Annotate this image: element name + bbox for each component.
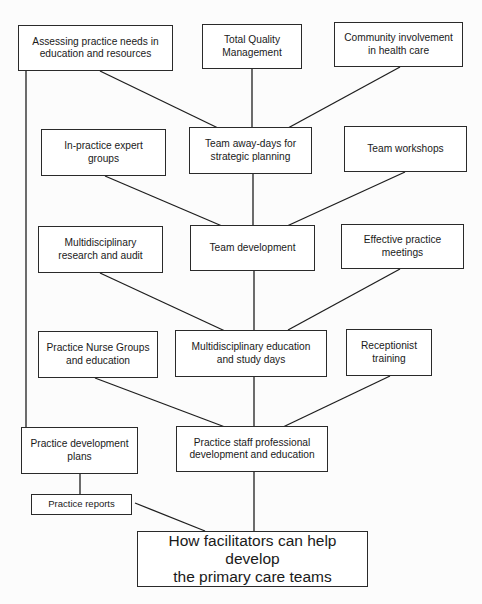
node-community-involvement: Community involvement in health care (334, 22, 463, 67)
node-receptionist-training: Receptionist training (346, 329, 432, 376)
node-team-away-days: Team away-days for strategic planning (189, 127, 312, 174)
node-team-workshops: Team workshops (344, 126, 467, 172)
node-label: In-practice expert groups (64, 140, 143, 165)
node-label: Receptionist training (361, 340, 417, 365)
edge-research-to-multied (100, 273, 225, 331)
node-effective-practice-meetings: Effective practice meetings (341, 224, 464, 269)
node-label: Multidisciplinary research and audit (58, 237, 142, 262)
node-team-development: Team development (190, 225, 315, 271)
node-practice-development-plans: Practice development plans (21, 427, 138, 474)
node-practice-reports: Practice reports (31, 494, 132, 515)
edge-reports-to-root (135, 503, 205, 531)
node-total-quality-management: Total Quality Management (202, 24, 302, 69)
edge-nurse-to-staff (95, 378, 225, 427)
node-practice-nurse-groups: Practice Nurse Groups and education (38, 331, 158, 378)
node-label: Practice staff professional development … (189, 437, 314, 462)
node-label: Total Quality Management (222, 34, 281, 59)
diagram-title: How facilitators can help develop the pr… (142, 532, 363, 586)
node-label: Practice development plans (31, 438, 129, 463)
edge-receptionist-to-staff (283, 376, 390, 427)
node-label: Team away-days for strategic planning (205, 138, 296, 163)
node-multidisciplinary-education: Multidisciplinary education and study da… (175, 330, 327, 377)
node-label: Assessing practice needs in education an… (32, 36, 158, 61)
edge-assessing-to-awaydays (100, 71, 218, 128)
edge-expert-to-teamdev (105, 176, 222, 226)
node-label: Practice reports (48, 498, 115, 511)
node-label: Team workshops (367, 143, 443, 156)
node-label: Community involvement in health care (344, 32, 453, 57)
node-label: Team development (209, 242, 295, 255)
node-practice-staff-professional: Practice staff professional development … (176, 426, 328, 472)
edge-community-to-awaydays (288, 67, 400, 128)
node-label: Multidisciplinary education and study da… (192, 341, 311, 366)
edge-workshops-to-teamdev (287, 172, 405, 226)
node-assessing-practice-needs: Assessing practice needs in education an… (18, 25, 173, 71)
edge-meetings-to-multied (288, 269, 400, 330)
node-label: Effective practice meetings (364, 234, 441, 259)
node-label: Practice Nurse Groups and education (46, 342, 149, 367)
node-in-practice-expert-groups: In-practice expert groups (41, 129, 166, 176)
node-multidisciplinary-research-audit: Multidisciplinary research and audit (38, 226, 163, 273)
node-root-facilitators: How facilitators can help develop the pr… (137, 531, 368, 587)
